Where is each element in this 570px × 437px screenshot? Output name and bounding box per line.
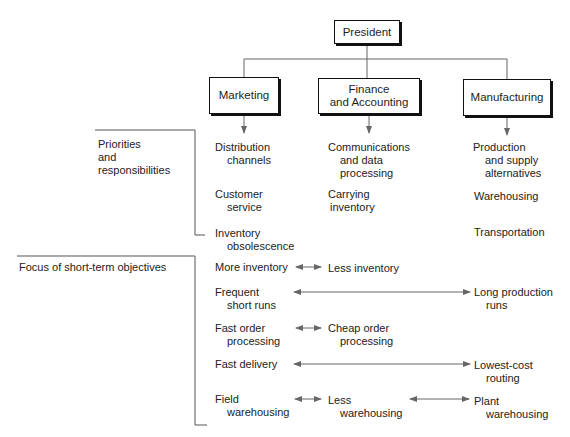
finance-label-line2: and Accounting	[330, 96, 409, 109]
marketing-box: Marketing	[209, 77, 279, 114]
objective-cheap-order-processing: Cheap order processing	[328, 322, 393, 348]
finance-box: Finance and Accounting	[318, 78, 420, 114]
objective-fast-delivery: Fast delivery	[215, 358, 277, 371]
objective-less-inventory: Less inventory	[328, 262, 399, 275]
priority-production-supply: Production and supply alternatives	[473, 141, 541, 180]
objective-field-warehousing: Field warehousing	[215, 393, 289, 419]
manufacturing-label: Manufacturing	[471, 91, 544, 104]
priority-carrying-inventory: Carrying inventory	[328, 188, 375, 214]
president-box: President	[334, 20, 400, 44]
objectives-section-label: Focus of short-term objectives	[19, 261, 166, 274]
objective-lowest-cost-routing: Lowest-cost routing	[474, 359, 533, 385]
priority-warehousing: Warehousing	[474, 190, 538, 203]
priority-communications: Communications and data processing	[328, 141, 410, 180]
priority-distribution-channels: Distribution channels	[215, 141, 271, 167]
manufacturing-box: Manufacturing	[463, 79, 551, 116]
president-label: President	[343, 26, 392, 39]
priority-transportation: Transportation	[474, 226, 545, 239]
objective-frequent-short-runs: Frequent short runs	[215, 286, 276, 312]
objective-less-warehousing: Less warehousing	[328, 394, 402, 420]
priority-customer-service: Customer service	[215, 188, 263, 214]
objective-fast-order-processing: Fast order processing	[215, 322, 280, 348]
priorities-section-label: Priorities and responsibilities	[98, 138, 170, 177]
objective-more-inventory: More inventory	[215, 261, 288, 274]
marketing-label: Marketing	[219, 89, 270, 102]
priority-inventory-obsolescence: Inventory obsolescence	[215, 227, 294, 253]
objective-long-production-runs: Long production runs	[474, 286, 553, 312]
finance-label-line1: Finance	[349, 83, 390, 96]
objective-plant-warehousing: Plant warehousing	[474, 395, 548, 421]
